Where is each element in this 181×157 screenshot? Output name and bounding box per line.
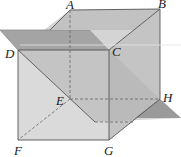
vertex-label-b: B: [158, 0, 166, 11]
horizontal-plane: [0, 30, 109, 50]
cube-diagram: A B C D E F G H: [0, 0, 181, 157]
vertex-label-a: A: [65, 0, 74, 12]
vertex-label-g: G: [104, 143, 114, 157]
vertex-label-f: F: [13, 143, 23, 157]
vertex-label-c: C: [112, 44, 121, 59]
vertex-label-h: H: [162, 90, 173, 105]
vertex-label-d: D: [4, 46, 15, 61]
vertex-label-e: E: [55, 93, 64, 108]
